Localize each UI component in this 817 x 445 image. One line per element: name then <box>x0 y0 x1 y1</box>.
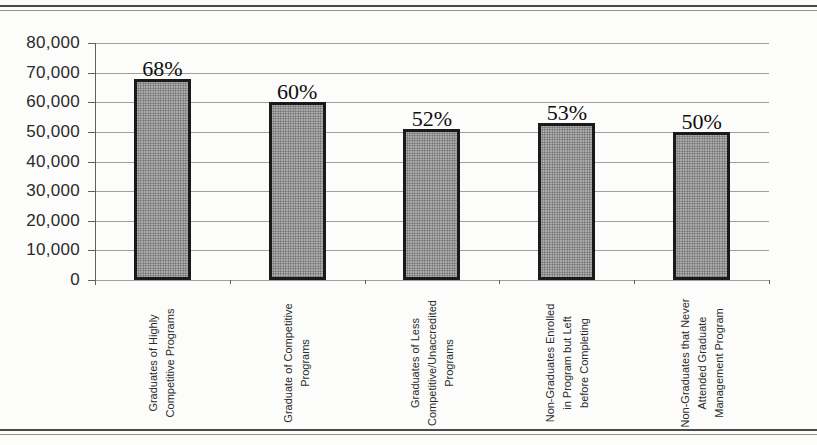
bar-value-label: 60% <box>230 80 365 104</box>
bar-group: 52% <box>365 43 500 280</box>
x-axis-tick-mark <box>230 280 231 284</box>
x-axis-tick-mark <box>365 280 366 284</box>
bar <box>269 102 326 280</box>
x-axis-category-label: Non-Graduates Enrolled in Program but Le… <box>541 293 592 433</box>
bar-group: 60% <box>230 43 365 280</box>
x-axis-category-label: Non-Graduates that Never Attended Gradua… <box>676 293 727 433</box>
x-axis-tick-mark <box>499 280 500 284</box>
category-label-container: Graduates of Highly Competitive Programs <box>95 296 230 430</box>
y-axis-tick-mark <box>88 250 95 251</box>
y-axis-tick-mark <box>88 102 95 103</box>
y-axis-tick-mark <box>88 132 95 133</box>
x-axis-tick-mark <box>769 280 770 284</box>
y-axis-tick-label: 80,000 <box>2 34 80 52</box>
category-label-container: Graduates of Less Competitive/Unaccredit… <box>365 296 500 430</box>
y-axis-tick-label: 60,000 <box>2 93 80 111</box>
y-axis-tick-label: 50,000 <box>2 123 80 141</box>
page: 80,000 70,000 60,000 50,000 40,000 30,00… <box>0 0 817 445</box>
bar <box>403 129 460 280</box>
x-axis-category-label: Graduates of Highly Competitive Programs <box>145 293 179 433</box>
bar-value-label: 53% <box>499 101 634 125</box>
bar-value-label: 50% <box>634 110 769 134</box>
bar-group: 68% <box>95 43 230 280</box>
y-axis-tick-mark <box>88 191 95 192</box>
y-axis-tick-label: 20,000 <box>2 212 80 230</box>
y-axis-tick-mark <box>88 73 95 74</box>
bar <box>538 123 595 280</box>
y-axis-tick-mark <box>88 221 95 222</box>
category-label-container: Non-Graduates Enrolled in Program but Le… <box>499 296 634 430</box>
bar-value-label: 68% <box>95 57 230 81</box>
gridline <box>95 280 769 281</box>
bar-value-label: 52% <box>365 107 500 131</box>
category-label-container: Non-Graduates that Never Attended Gradua… <box>634 296 769 430</box>
y-axis-tick-label: 70,000 <box>2 64 80 82</box>
bar <box>134 79 191 280</box>
category-label-container: Graduate of Competitive Programs <box>230 296 365 430</box>
y-axis-tick-mark <box>88 162 95 163</box>
bar-group: 50% <box>634 43 769 280</box>
bar-group: 53% <box>499 43 634 280</box>
y-axis-tick-label: 0 <box>2 271 80 289</box>
x-axis-tick-mark <box>634 280 635 284</box>
y-axis-tick-label: 10,000 <box>2 241 80 259</box>
y-axis-tick-label: 30,000 <box>2 182 80 200</box>
y-axis-tick-mark <box>88 280 95 281</box>
y-axis-tick-mark <box>88 43 95 44</box>
x-axis-category-label: Graduate of Competitive Programs <box>280 293 314 433</box>
y-axis-tick-label: 40,000 <box>2 153 80 171</box>
bottom-rule <box>0 429 817 435</box>
top-rule <box>0 5 817 11</box>
bar <box>673 132 730 280</box>
x-axis-category-label: Graduates of Less Competitive/Unaccredit… <box>406 293 457 433</box>
